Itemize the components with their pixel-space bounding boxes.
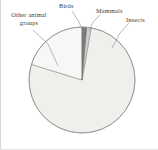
pie-label-insects: Insects — [126, 16, 158, 24]
pie-label-other-animal-groups: Other animal groups — [4, 11, 54, 26]
pie-label-birds: Birds — [59, 2, 89, 10]
pie-label-mammals: Mammals — [96, 7, 136, 15]
pie-chart-figure: Other animal groups Birds Mammals Insect… — [0, 0, 158, 150]
